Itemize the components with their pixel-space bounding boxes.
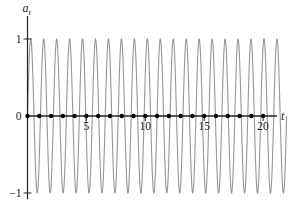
sample-dot (178, 114, 182, 118)
sample-dot (61, 114, 65, 118)
y-tick-label: 1 (16, 33, 22, 45)
sample-dot (237, 114, 241, 118)
sample-dot (143, 114, 147, 118)
aliasing-figure: 510152010−1tat (0, 0, 297, 210)
sample-dot (25, 114, 29, 118)
sample-dot (84, 114, 88, 118)
sample-dot (261, 114, 265, 118)
x-tick-label: 15 (198, 120, 210, 132)
sample-dot (131, 114, 135, 118)
sample-dot (96, 114, 100, 118)
y-axis-label: at (23, 1, 32, 17)
sample-dot (167, 114, 171, 118)
x-tick-label: 10 (140, 120, 152, 132)
sample-dot (108, 114, 112, 118)
x-tick-label: 20 (257, 120, 269, 132)
sample-dot (226, 114, 230, 118)
x-tick-label: 5 (84, 120, 90, 132)
sample-dot (155, 114, 159, 118)
sample-dot (190, 114, 194, 118)
sample-dot (49, 114, 53, 118)
x-axis-label: t (281, 109, 285, 123)
aliasing-chart-canvas: 510152010−1tat (0, 0, 297, 210)
y-tick-label: −1 (9, 187, 21, 199)
sample-dot (72, 114, 76, 118)
sample-dot (249, 114, 253, 118)
y-tick-label: 0 (16, 110, 22, 122)
sample-dot (202, 114, 206, 118)
sample-dot (37, 114, 41, 118)
sample-dot (120, 114, 124, 118)
sample-dot (214, 114, 218, 118)
